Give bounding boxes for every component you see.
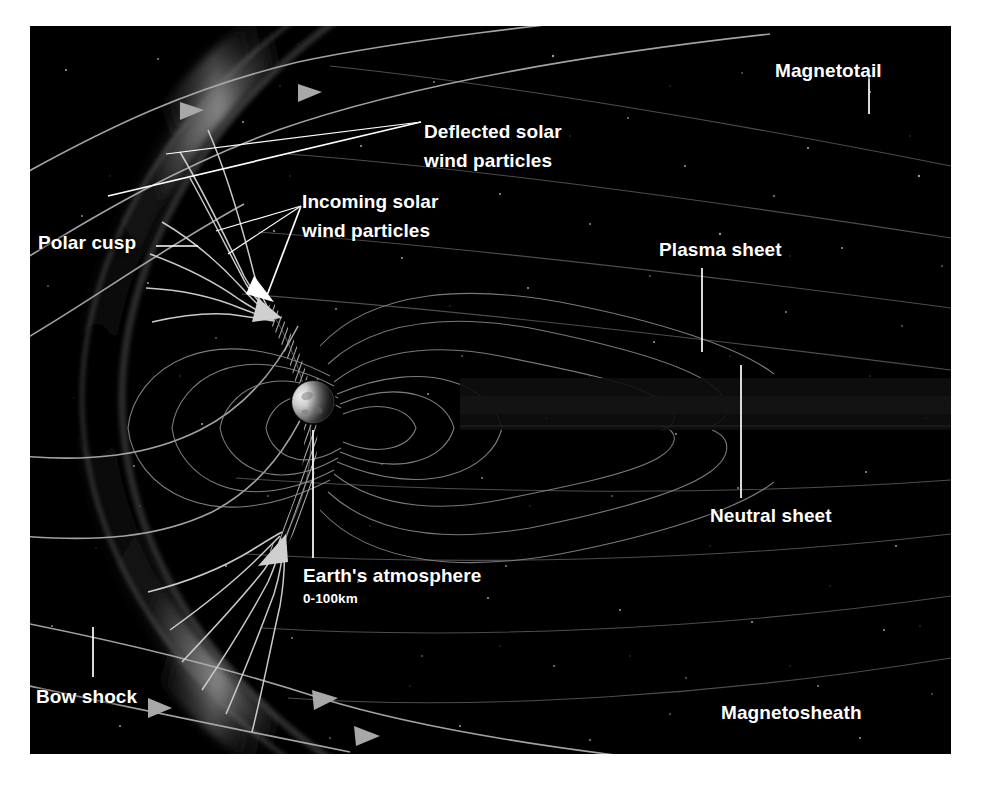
incoming-pointer-1	[216, 206, 301, 231]
label-bow-shock: Bow shock	[36, 686, 137, 708]
label-magnetotail: Magnetotail	[775, 60, 882, 82]
label-deflected-solar-wind-line1: Deflected solar	[424, 121, 562, 143]
earth	[290, 379, 336, 425]
label-atmosphere-altitude-range: 0-100km	[303, 591, 358, 607]
magnetopause-hatched-boundary	[268, 306, 311, 554]
scan-artifact-strip	[30, 760, 951, 782]
label-neutral-sheet: Neutral sheet	[710, 505, 832, 527]
label-plasma-sheet: Plasma sheet	[659, 239, 782, 261]
label-deflected-solar-wind-line2: wind particles	[424, 150, 552, 172]
incoming-pointer-3	[266, 206, 301, 298]
magnetosphere-diagram-plate: Magnetotail Deflected solar wind particl…	[30, 26, 951, 754]
figure-page: Magnetotail Deflected solar wind particl…	[0, 0, 986, 791]
label-incoming-solar-wind-line2: wind particles	[302, 220, 430, 242]
plasma-sheet-region	[460, 378, 951, 430]
bow-shock-glow	[64, 26, 390, 754]
label-earths-atmosphere: Earth's atmosphere	[303, 565, 481, 587]
label-magnetosheath: Magnetosheath	[721, 702, 862, 724]
label-polar-cusp: Polar cusp	[38, 232, 136, 254]
polar-cusp-south-arrowhead	[258, 534, 288, 566]
label-incoming-solar-wind-line1: Incoming solar	[302, 191, 439, 213]
incoming-pointer-2	[228, 206, 301, 254]
scan-artifact-text	[30, 760, 951, 769]
